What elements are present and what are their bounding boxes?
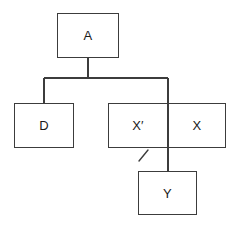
node-label-d: D <box>39 119 49 132</box>
diagram-canvas: A D X′ X Y <box>0 0 237 227</box>
node-box-a[interactable]: A <box>57 13 119 58</box>
node-cell-x[interactable]: X <box>168 104 226 147</box>
node-label-a: A <box>84 29 93 42</box>
node-box-y[interactable]: Y <box>138 171 197 215</box>
node-box-d[interactable]: D <box>14 103 74 148</box>
node-box-split-x[interactable]: X′ X <box>108 103 226 148</box>
node-label-y: Y <box>163 187 172 200</box>
node-cell-x-prime[interactable]: X′ <box>108 104 168 147</box>
slash-annotation-icon <box>139 150 148 161</box>
node-label-x-prime: X′ <box>132 119 144 132</box>
node-label-x: X <box>193 119 202 132</box>
